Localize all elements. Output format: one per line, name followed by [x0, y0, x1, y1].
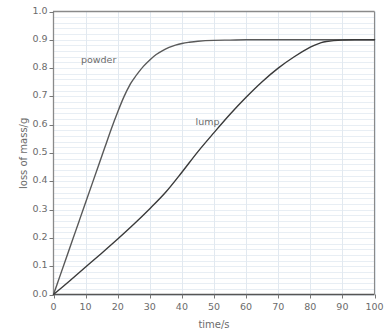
- x-tick-label: 100: [361, 301, 389, 312]
- x-tick-label: 60: [232, 301, 260, 312]
- x-tick-label: 90: [328, 301, 356, 312]
- x-tick-label: 70: [264, 301, 292, 312]
- x-tick-label: 20: [104, 301, 132, 312]
- x-tick-label: 30: [136, 301, 164, 312]
- series-annotation-lump: lump: [196, 116, 220, 127]
- y-tick-label: 0.9: [8, 33, 48, 44]
- x-axis-title: time/s: [184, 319, 244, 330]
- plot-canvas: [0, 0, 392, 335]
- x-tick-label: 40: [168, 301, 196, 312]
- y-tick-label: 0.7: [8, 89, 48, 100]
- y-axis-title: loss of mass/g: [18, 118, 29, 189]
- x-tick-label: 80: [296, 301, 324, 312]
- series-annotation-powder: powder: [81, 54, 116, 65]
- y-tick-label: 0.1: [8, 259, 48, 270]
- x-tick-label: 10: [72, 301, 100, 312]
- y-tick-label: 0.8: [8, 61, 48, 72]
- x-tick-label: 50: [200, 301, 228, 312]
- chart-figure: 0.00.10.20.30.40.50.60.70.80.91.00102030…: [0, 0, 392, 335]
- x-tick-label: 0: [40, 301, 68, 312]
- y-tick-label: 0.3: [8, 203, 48, 214]
- y-tick-label: 0.0: [8, 288, 48, 299]
- y-tick-label: 1.0: [8, 5, 48, 16]
- y-tick-label: 0.2: [8, 231, 48, 242]
